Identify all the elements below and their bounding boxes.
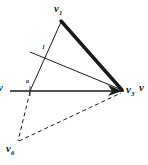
vertex-label-apex: v1 [54, 3, 62, 17]
vertex-label-bottom-subscript: 6 [11, 149, 14, 156]
dashed-edge-axis-to-bottom-vertex [18, 92, 30, 141]
vertex-label-apex-subscript: 1 [59, 9, 62, 16]
dashed-edge-bottom-to-right-vertex [19, 93, 121, 141]
vertex-label-left-edge-partial: v [0, 82, 3, 96]
vertex-label-left-edge-base: v [0, 81, 3, 93]
annotation-mark-b: 1 [42, 44, 45, 50]
vertex-label-right-edge-base: v [139, 81, 144, 93]
vertex-label-right-edge-partial: v [139, 82, 144, 96]
vertex-label-bottom: v6 [6, 143, 14, 157]
vertex-label-right: v3 [126, 84, 134, 98]
figure-root: v1 v3 v6 v v a 1 [0, 0, 148, 165]
annotation-mark-a: a [26, 78, 29, 84]
thick-edge-apex-to-right-vertex [61, 21, 122, 90]
vertex-label-right-subscript: 3 [131, 90, 134, 97]
thin-chord-to-right-vertex [30, 52, 122, 90]
thin-edge-apex-to-axis [30, 22, 61, 91]
